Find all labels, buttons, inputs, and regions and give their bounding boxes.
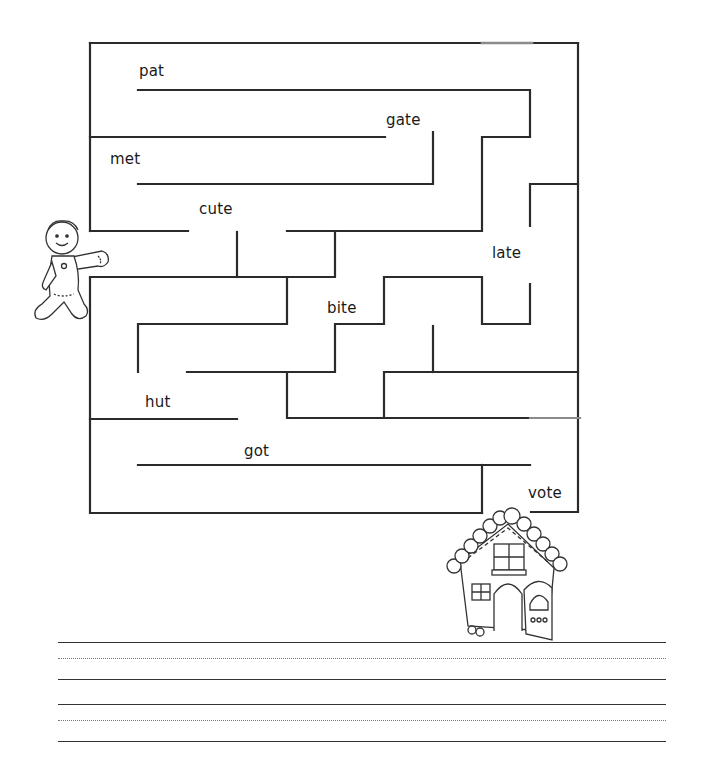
- writing-line-solid: [58, 642, 666, 643]
- word-got: got: [244, 442, 269, 460]
- writing-line-dotted: [58, 658, 666, 659]
- word-cute: cute: [199, 200, 233, 218]
- gingerbread-man-icon: [22, 218, 114, 323]
- maze-outer-right: [531, 43, 578, 512]
- word-bite: bite: [327, 299, 357, 317]
- word-gate: gate: [386, 111, 421, 129]
- word-hut: hut: [145, 393, 171, 411]
- word-pat: pat: [139, 62, 164, 80]
- writing-line-solid: [58, 741, 666, 742]
- word-vote: vote: [528, 484, 562, 502]
- writing-line-solid: [58, 679, 666, 680]
- word-late: late: [492, 244, 521, 262]
- gingerbread-house-icon: [438, 506, 578, 642]
- maze: [0, 0, 702, 782]
- writing-line-solid: [58, 704, 666, 705]
- word-met: met: [110, 150, 140, 168]
- writing-line-dotted: [58, 720, 666, 721]
